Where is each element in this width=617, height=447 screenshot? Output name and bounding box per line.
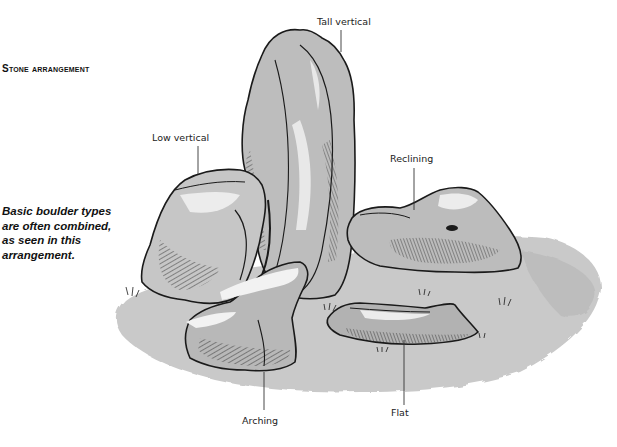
- label-reclining: Reclining: [390, 153, 433, 164]
- stone-arrangement-illustration: [0, 0, 617, 447]
- label-low-vertical: Low vertical: [152, 132, 209, 143]
- flat-stone: [327, 303, 478, 344]
- label-tall-vertical: Tall vertical: [317, 16, 371, 27]
- reclining-stone: [347, 188, 521, 273]
- label-arching: Arching: [242, 415, 278, 426]
- label-flat: Flat: [391, 407, 409, 418]
- tall-vertical-stone: [242, 30, 355, 299]
